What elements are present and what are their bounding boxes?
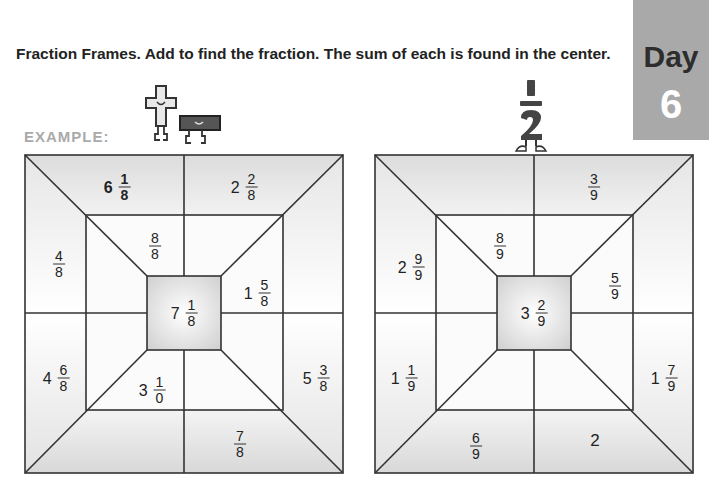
day-word: Day — [633, 40, 709, 74]
day-badge: Day 6 — [633, 0, 709, 140]
one-half-mascot-icon — [510, 80, 554, 154]
center-sum: 3 29 — [521, 298, 548, 329]
fraction-frame-problem: 39 2 99 89 59 3 29 1 19 1 79 69 2 — [374, 154, 694, 474]
cell-inner-bottom-left: 3 10 — [139, 375, 166, 406]
plus-minus-mascot-icon — [145, 84, 225, 150]
center-sum: 7 18 — [171, 298, 198, 329]
day-number: 6 — [633, 82, 709, 127]
cell-top-right: 2 28 — [231, 172, 258, 203]
cell-top-right: 39 — [588, 172, 600, 203]
cell-bottom-right: 78 — [234, 429, 246, 460]
fraction-frame-example: 6 18 2 28 48 88 1 58 7 18 4 68 3 10 5 38… — [24, 154, 344, 474]
example-label: EXAMPLE: — [24, 128, 110, 145]
cell-left-bottom: 1 19 — [391, 363, 418, 394]
cell-inner-top-left: 89 — [494, 231, 506, 262]
cell-inner-top-left: 88 — [149, 231, 161, 262]
cell-left-top: 48 — [53, 249, 65, 280]
cell-top-left: 6 18 — [104, 172, 131, 203]
cell-left-bottom: 4 68 — [43, 363, 70, 394]
cell-inner-right-top: 1 58 — [244, 278, 271, 309]
cell-bottom-right: 2 — [590, 431, 599, 451]
cell-left-top: 2 99 — [398, 252, 425, 283]
cell-right-bottom: 5 38 — [303, 363, 330, 394]
cell-right-bottom: 1 79 — [651, 363, 678, 394]
instructions: Fraction Frames. Add to find the fractio… — [16, 44, 616, 63]
cell-bottom-left: 69 — [470, 431, 482, 462]
cell-inner-right-top: 59 — [609, 271, 621, 302]
